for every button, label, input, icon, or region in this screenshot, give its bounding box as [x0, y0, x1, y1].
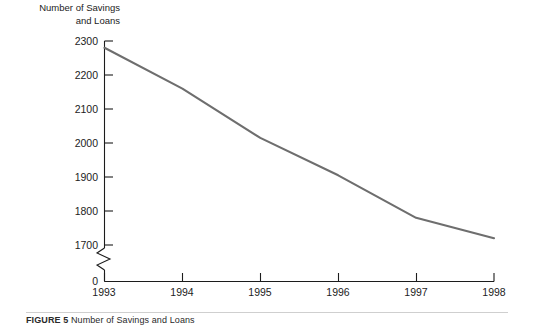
y-axis-tick-labels: 2300 2200 2100 2000 1900 1800 1700	[75, 35, 99, 251]
figure-caption-text: Number of Savings and Loans	[71, 315, 195, 325]
y-tick-label-5: 1800	[75, 205, 99, 217]
axis-break-symbol	[97, 248, 110, 270]
y-tick-label-1: 2200	[75, 69, 99, 81]
x-tick-label-1: 1994	[170, 286, 194, 298]
x-axis-ticks	[105, 273, 495, 282]
x-tick-label-2: 1995	[248, 286, 272, 298]
caption-divider	[26, 312, 508, 313]
x-tick-label-4: 1997	[404, 286, 428, 298]
figure-number: FIGURE 5	[26, 315, 68, 325]
x-tick-label-0: 1993	[92, 286, 116, 298]
x-tick-label-3: 1996	[326, 286, 350, 298]
y-axis-title: Number of Savings and Loans	[8, 2, 120, 27]
x-tick-label-5: 1998	[482, 286, 506, 298]
y-tick-label-6: 1700	[75, 239, 99, 251]
y-tick-label-4: 1900	[75, 171, 99, 183]
y-tick-label-0: 2300	[75, 35, 99, 47]
data-series-line	[105, 48, 495, 238]
x-axis-tick-labels: 1993 1994 1995 1996 1997 1998	[92, 286, 506, 298]
y-axis-ticks	[105, 41, 114, 245]
figure-caption: FIGURE 5 Number of Savings and Loans	[26, 315, 195, 325]
y-tick-label-2: 2100	[75, 103, 99, 115]
y-tick-label-3: 2000	[75, 137, 99, 149]
